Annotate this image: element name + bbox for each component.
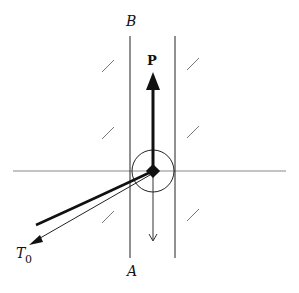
- rope-curve: [36, 171, 153, 225]
- label-a: A: [125, 263, 137, 279]
- label-t-subscript: 0: [25, 253, 32, 266]
- tension-arrow: [35, 175, 150, 241]
- tension-arrowhead: [29, 235, 43, 245]
- force-diagram: B A P T 0: [0, 0, 299, 293]
- label-b: B: [125, 13, 136, 29]
- force-p-arrowhead: [146, 72, 160, 90]
- label-p: P: [147, 53, 157, 68]
